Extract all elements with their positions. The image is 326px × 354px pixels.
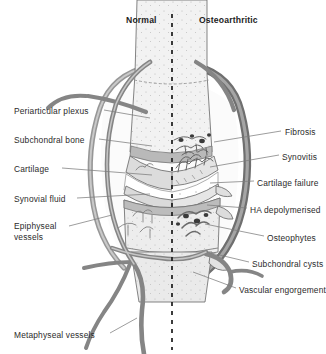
leader-epiphyseal-vessels	[69, 215, 112, 226]
label-epiphyseal-vessels: Epiphyseal vessels	[14, 221, 66, 242]
label-subchondral-bone: Subchondral bone	[14, 135, 85, 146]
label-fibrosis: Fibrosis	[285, 127, 316, 138]
header-normal: Normal	[126, 15, 157, 25]
leader-metaphyseal-vessels	[110, 318, 137, 333]
label-vascular-engorgement: Vascular engorgement	[239, 285, 326, 296]
label-ha-depolymerised: HA depolymerised	[250, 205, 321, 216]
label-synovial-fluid: Synovial fluid	[14, 194, 66, 205]
label-cartilage: Cartilage	[14, 164, 49, 175]
label-periarticular-plexus: Periarticular plexus	[14, 106, 89, 117]
label-osteophytes: Osteophytes	[267, 233, 316, 244]
label-subchondral-cysts: Subchondral cysts	[252, 259, 323, 270]
label-synovitis: Synovitis	[282, 152, 317, 163]
label-cartilage-failure: Cartilage failure	[257, 178, 319, 189]
label-metaphyseal-vessels: Metaphyseal vessels	[14, 330, 95, 341]
header-osteoarthritic: Osteoarthritic	[199, 15, 258, 25]
